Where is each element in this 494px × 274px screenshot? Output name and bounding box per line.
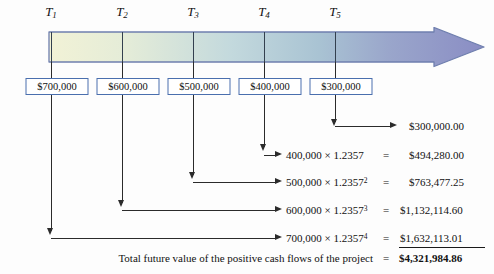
timeline-tick-t1 [51,32,52,62]
flow-line-row5 [51,238,276,239]
drop-arrowhead-t4 [260,144,266,151]
flow-arrowhead-row5 [275,234,282,240]
flow-arrowhead-row2 [275,151,282,157]
equals-row5: = [383,232,389,244]
timeline-tick-t5 [335,32,336,62]
cash-flow-box-t2: $600,000 [97,78,160,95]
equals-row4: = [383,204,389,216]
drop-line-t4 [264,95,265,147]
result-row1: $300,000.00 [409,120,464,132]
timeline-tick-t3 [193,32,194,62]
timeline-arrow [48,27,488,69]
formula-row3: 500,000 × 1.23572 [286,176,367,188]
cash-flow-timeline-diagram: T1 T2 T3 T4 T5 $700, [0,0,494,274]
connector-t1 [51,62,52,78]
period-label-t1: T1 [45,4,57,20]
cash-flow-box-t5: $300,000 [310,78,373,95]
drop-line-t5 [335,95,336,122]
total-value: $4,321,984.86 [399,252,462,264]
result-row5: $1,632,113.01 [400,232,463,244]
equals-total: = [383,252,389,264]
flow-arrowhead-row1 [390,122,397,128]
drop-arrowhead-t3 [189,172,195,179]
connector-t2 [122,62,123,78]
total-label: Total future value of the positive cash … [68,252,373,264]
timeline-tick-t4 [264,32,265,62]
drop-line-t3 [193,95,194,175]
flow-line-row4 [122,210,276,211]
formula-row4: 600,000 × 1.23573 [286,204,367,216]
formula-row2: 400,000 × 1.2357 [286,149,364,161]
drop-arrowhead-t5 [331,119,337,126]
flow-arrowhead-row3 [275,178,282,184]
cash-flow-box-t4: $400,000 [239,78,302,95]
connector-t4 [264,62,265,78]
result-row4: $1,132,114.60 [400,204,463,216]
period-label-t5: T5 [329,4,341,20]
formula-row5: 700,000 × 1.23574 [286,232,367,244]
flow-line-row3 [193,182,276,183]
connector-t3 [193,62,194,78]
drop-line-t2 [122,95,123,203]
equals-row3: = [383,176,389,188]
period-label-t4: T4 [258,4,270,20]
cash-flow-box-t3: $500,000 [168,78,231,95]
period-label-t3: T3 [187,4,199,20]
result-row2: $494,280.00 [409,149,464,161]
period-label-t2: T2 [116,4,128,20]
connector-t5 [335,62,336,78]
timeline-tick-t2 [122,32,123,62]
drop-arrowhead-t1 [47,228,53,235]
total-separator-rule [399,247,485,248]
flow-arrowhead-row4 [275,206,282,212]
cash-flow-box-t1: $700,000 [26,78,89,95]
drop-line-t1 [51,95,52,231]
drop-arrowhead-t2 [118,200,124,207]
equals-row2: = [383,149,389,161]
flow-line-row1 [335,126,391,127]
result-row3: $763,477.25 [409,176,464,188]
